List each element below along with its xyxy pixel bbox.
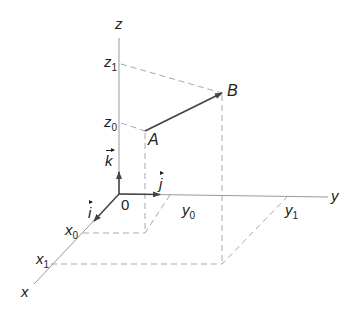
x0-label: x0: [65, 222, 78, 241]
vector-arrow-j-icon: j: [159, 176, 162, 191]
coordinate-diagram: z y x 0 z1 z0 y0 y1 x0 x1 A B k j i: [0, 0, 360, 317]
y0-sub: 0: [190, 210, 196, 221]
unit-vector-k-label: k: [105, 153, 113, 168]
diagram-canvas: [0, 0, 360, 317]
x1-label: x1: [36, 251, 49, 270]
z1-sub: 1: [112, 62, 118, 73]
y1-label: y1: [285, 202, 298, 221]
x-axis-label: x: [21, 284, 29, 299]
z0-sub: 0: [112, 122, 118, 133]
z0-label: z0: [104, 114, 117, 133]
z0-base: z: [104, 113, 112, 130]
point-B-label: B: [227, 83, 238, 99]
z1-to-B-dashed: [121, 64, 222, 93]
unit-vector-i-arrow: [94, 194, 119, 221]
y0-base: y: [182, 201, 190, 218]
unit-vector-j-arrow: [119, 194, 160, 195]
z0-to-A-dashed: [121, 123, 145, 131]
point-A-label: A: [148, 132, 159, 148]
vector-arrow-k-icon: k: [105, 153, 113, 168]
origin-label: 0: [121, 197, 129, 212]
z-axis-label: z: [115, 16, 123, 31]
x0-sub: 0: [73, 230, 79, 241]
unit-vector-j-label: j: [159, 176, 162, 191]
x0-base: x: [65, 221, 73, 238]
vector-arrow-i-icon: i: [88, 205, 91, 220]
y0-to-A-floor-dashed: [145, 195, 170, 233]
y1-to-B-floor-dashed: [222, 196, 288, 264]
y0-label: y0: [182, 202, 195, 221]
x1-sub: 1: [44, 259, 50, 270]
z1-base: z: [104, 53, 112, 70]
y1-base: y: [285, 201, 293, 218]
z1-label: z1: [104, 54, 117, 73]
x1-base: x: [36, 250, 44, 267]
unit-vector-i-label: i: [88, 205, 91, 220]
vector-AB: [145, 93, 222, 131]
y1-sub: 1: [293, 210, 299, 221]
projection-lines: [51, 64, 288, 264]
axes: [34, 38, 328, 284]
y-axis-label: y: [331, 188, 339, 203]
